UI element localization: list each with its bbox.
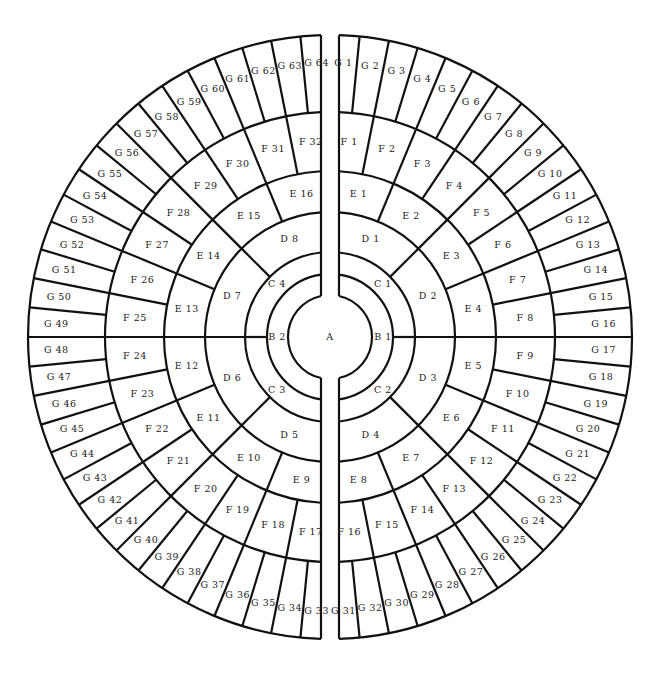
sector-label-g: G 37	[200, 579, 225, 590]
sector-label-g: G 32	[358, 602, 383, 613]
sector-label-g: G 61	[225, 73, 250, 84]
sector-label-g: G 30	[384, 597, 409, 608]
sector-label-f: F 16	[337, 526, 361, 537]
ring-divider-g	[554, 359, 631, 367]
sector-label-e: E 4	[464, 303, 482, 314]
sector-label-f: F 12	[470, 455, 494, 466]
sector-label-g: G 51	[52, 264, 77, 275]
ring-divider-g	[554, 307, 631, 315]
ring-divider-f	[483, 401, 538, 424]
sector-label-f: F 11	[491, 423, 515, 434]
sector-label-g: G 17	[591, 344, 616, 355]
sector-label-g: G 29	[410, 589, 435, 600]
sector-label-g: G 3	[388, 65, 406, 76]
sector-label-f: F 20	[194, 483, 218, 494]
sector-label-g: G 11	[553, 190, 578, 201]
ring-divider-f	[122, 401, 177, 424]
sector-label-g: G 2	[361, 60, 379, 71]
ring-divider-g	[34, 381, 110, 396]
sector-label-f: F 19	[226, 504, 250, 515]
sector-label-g: G 31	[331, 605, 356, 616]
sector-label-g: G 57	[134, 128, 159, 139]
sector-label-f: F 6	[494, 239, 511, 250]
sector-label-f: F 8	[517, 312, 534, 323]
sector-label-g: G 64	[304, 57, 329, 68]
sector-label-f: F 22	[145, 423, 169, 434]
sector-label-f: F 24	[123, 350, 147, 361]
sector-label-g: G 23	[538, 494, 563, 505]
sector-label-g: G 40	[134, 534, 159, 545]
sector-label-g: G 59	[177, 96, 202, 107]
ring-divider-e	[266, 184, 282, 222]
sector-label-g: G 63	[277, 60, 302, 71]
ring-arc-right	[339, 296, 372, 378]
sector-label-e: E 11	[197, 412, 221, 423]
sector-label-e: E 16	[289, 188, 313, 199]
sector-label-g: G 18	[589, 371, 614, 382]
sector-label-g: G 38	[177, 566, 202, 577]
sector-label-g: G 44	[70, 448, 95, 459]
sector-label-g: G 13	[576, 239, 601, 250]
sector-label-f: F 17	[299, 526, 323, 537]
ring-divider-g	[352, 561, 360, 638]
ring-divider-g	[271, 41, 286, 117]
ring-divider-f	[362, 116, 374, 174]
sector-label-d: D 6	[223, 372, 241, 383]
ring-divider-e	[177, 385, 215, 401]
sector-label-g: G 55	[98, 168, 123, 179]
ring-divider-f	[109, 369, 167, 381]
ring-divider-d	[242, 249, 270, 277]
ring-divider-g	[395, 48, 417, 122]
sector-label-g: G 39	[154, 551, 179, 562]
sector-label-g: G 10	[538, 168, 563, 179]
sector-label-d: D 7	[223, 290, 241, 301]
sector-label-g: G 60	[200, 83, 225, 94]
sector-label-g: G 56	[115, 147, 140, 158]
ring-divider-g	[242, 48, 264, 122]
center-label-a: A	[325, 331, 333, 342]
sector-label-g: G 50	[47, 291, 72, 302]
sector-label-f: F 14	[411, 504, 435, 515]
sector-label-e: E 5	[464, 360, 482, 371]
ring-divider-e	[378, 184, 394, 222]
sector-label-e: E 1	[350, 188, 368, 199]
ring-divider-f	[362, 500, 374, 558]
ring-divider-e	[418, 425, 447, 454]
sector-label-f: F 18	[261, 519, 285, 530]
ring-divider-g	[300, 36, 308, 113]
sector-label-g: G 36	[225, 589, 250, 600]
ring-divider-e	[213, 425, 242, 454]
sector-label-f: F 13	[442, 483, 466, 494]
ring-arc-left	[288, 296, 321, 378]
sector-label-g: G 20	[576, 423, 601, 434]
ring-divider-f	[394, 129, 417, 184]
sector-label-g: G 34	[277, 602, 302, 613]
sector-label-f: F 30	[226, 158, 250, 169]
sector-label-f: F 26	[131, 274, 155, 285]
sector-label-f: F 15	[375, 519, 399, 530]
ring-divider-e	[266, 452, 282, 490]
sector-label-c: C 2	[374, 384, 392, 395]
sector-label-g: G 5	[438, 83, 456, 94]
sector-label-c: C 4	[268, 278, 286, 289]
ring-divider-f	[483, 251, 538, 274]
ring-divider-e	[445, 385, 483, 401]
sector-label-d: D 1	[362, 233, 380, 244]
ring-divider-d	[390, 249, 418, 277]
sector-label-f: F 7	[509, 274, 526, 285]
ring-divider-f	[244, 129, 267, 184]
ring-divider-e	[378, 452, 394, 490]
sector-label-d: D 8	[280, 233, 298, 244]
sector-label-f: F 9	[517, 350, 534, 361]
sector-label-g: G 1	[334, 57, 352, 68]
ring-divider-d	[390, 397, 418, 425]
sector-label-g: G 25	[502, 534, 527, 545]
sector-label-f: F 1	[341, 136, 358, 147]
sector-label-e: E 3	[443, 250, 461, 261]
sector-label-f: F 31	[261, 143, 285, 154]
ring-divider-g	[374, 558, 389, 634]
sector-label-g: G 43	[83, 472, 108, 483]
sector-label-d: D 3	[419, 372, 437, 383]
sector-label-g: G 42	[98, 494, 123, 505]
sector-label-f: F 21	[167, 455, 191, 466]
